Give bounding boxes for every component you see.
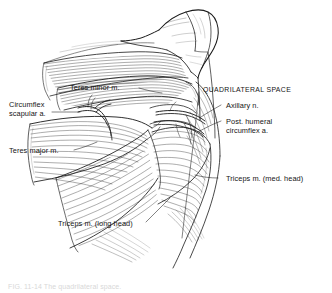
- label-axillary-nerve: Axillary n.: [226, 101, 259, 110]
- label-quadrilateral-space: QUADRILATERAL SPACE: [203, 85, 291, 94]
- label-triceps-med-head: Triceps m. (med. head): [226, 174, 303, 183]
- quadrilateral-space-contents: [150, 102, 205, 144]
- label-triceps-long-head: Triceps m. (long head): [58, 219, 133, 228]
- label-circumflex-scapular-line2: scapular a.: [9, 109, 46, 118]
- leader-axillary-nerve: [201, 105, 221, 117]
- label-teres-minor: Teres minor m.: [70, 83, 120, 92]
- leader-teres-minor: [139, 88, 162, 93]
- anatomical-figure: Teres minor m. QUADRILATERAL SPACE Circu…: [0, 0, 332, 293]
- label-circumflex-scapular-line1: Circumflex: [9, 100, 44, 109]
- circumflex-scapular-artery: [78, 95, 112, 140]
- leader-triceps-long-head: [146, 198, 170, 222]
- label-post-humeral-circumflex-line2: circumflex a.: [226, 126, 268, 135]
- triceps-long-head-muscle: [56, 130, 160, 262]
- label-teres-major: Teres major m.: [9, 146, 59, 155]
- figure-caption: FIG. 11-14 The quadrilateral space.: [8, 283, 121, 290]
- leader-triceps-med-head: [195, 175, 218, 178]
- label-post-humeral-circumflex-line1: Post. humeral: [226, 117, 272, 126]
